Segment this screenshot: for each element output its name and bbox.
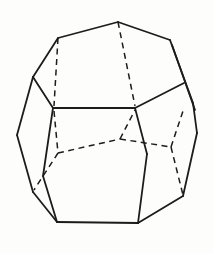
figure-canvas <box>0 0 213 254</box>
visible-edge <box>33 77 53 108</box>
hidden-edge <box>120 110 135 139</box>
visible-edge <box>43 108 53 176</box>
visible-edge <box>135 108 147 154</box>
visible-edge <box>57 222 138 223</box>
polyhedron-wireframe <box>0 0 213 254</box>
hidden-edge <box>171 108 184 147</box>
hidden-edge <box>171 147 183 195</box>
hidden-edge <box>54 38 58 106</box>
visible-edge <box>33 38 58 77</box>
visible-edge <box>43 176 57 222</box>
visible-edge <box>138 154 147 223</box>
hidden-edge <box>54 111 58 153</box>
visible-edge <box>172 45 195 110</box>
visible-edge <box>17 135 33 192</box>
hidden-edge <box>58 139 120 153</box>
visible-edge <box>138 196 183 223</box>
visible-edge <box>58 22 118 38</box>
visible-edge <box>33 192 57 222</box>
visible-edge <box>17 77 33 135</box>
hidden-edge <box>118 22 135 106</box>
visible-edge <box>135 83 184 108</box>
visible-edge <box>118 22 170 40</box>
visible-edge <box>183 133 197 196</box>
